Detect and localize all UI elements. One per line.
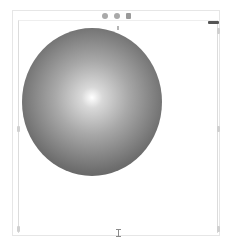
resize-handle-bottom-right[interactable] bbox=[217, 226, 220, 232]
drag-grip-icon[interactable] bbox=[208, 21, 219, 24]
resize-handle-right[interactable] bbox=[217, 126, 220, 132]
resize-handle-bottom-left[interactable] bbox=[17, 226, 20, 232]
circle-tool-icon[interactable] bbox=[102, 13, 108, 19]
circle-tool-icon-2[interactable] bbox=[114, 13, 120, 19]
resize-handle-top-right[interactable] bbox=[217, 28, 220, 34]
bottom-anchor-marker[interactable] bbox=[118, 229, 119, 237]
gradient-sphere[interactable] bbox=[22, 28, 162, 176]
resize-handle-left[interactable] bbox=[17, 126, 20, 132]
top-anchor-marker[interactable] bbox=[117, 26, 119, 30]
square-tool-icon[interactable] bbox=[126, 13, 131, 19]
